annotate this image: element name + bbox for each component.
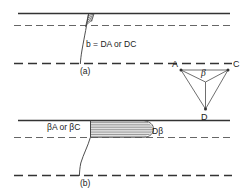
label-partial-d-beta: Dβ <box>152 127 163 136</box>
label-panel-b-caption: (b) <box>80 179 90 188</box>
label-partial-beta-a-or-c: βA or βC <box>47 123 80 132</box>
label-burgers-vector: b = DA or DC <box>86 40 136 49</box>
label-panel-a-caption: (a) <box>80 67 90 76</box>
label-tetra-vertex-d: D <box>201 113 208 122</box>
tetra-vertex-dot-A <box>180 69 183 72</box>
tetra-vertex-dot-D <box>204 108 207 111</box>
label-tetra-vertex-a: A <box>172 60 178 69</box>
panel-b-dislocation-curve <box>79 138 90 177</box>
figure-root: b = DA or DC (a) βA or βC Dβ (b) A C D β <box>0 0 251 195</box>
tetra-vertex-dot-C <box>227 69 230 72</box>
panel-b-fault-ribbon <box>91 121 154 137</box>
diagram-canvas <box>0 0 251 195</box>
label-tetra-angle-beta: β <box>201 69 206 79</box>
label-tetra-vertex-c: C <box>233 60 240 69</box>
